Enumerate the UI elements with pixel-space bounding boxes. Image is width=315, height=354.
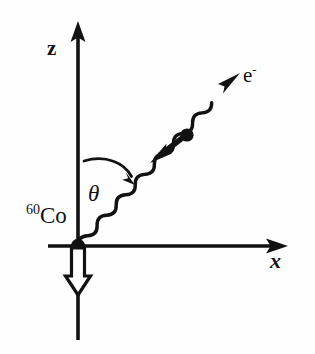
electron-spin-arrow-icon — [150, 128, 194, 163]
nucleus-element-symbol: Co — [40, 203, 67, 228]
beta-decay-figure: z x e- θ 60Co — [0, 0, 315, 354]
electron-track-wave — [75, 81, 232, 248]
electron-track-arrowhead-icon — [218, 73, 240, 94]
electron-symbol: e — [243, 63, 252, 87]
nuclear-spin-arrow-icon — [66, 248, 91, 295]
nucleus-mass-number: 60 — [26, 202, 40, 217]
electron-spin-dot-icon — [180, 128, 193, 141]
z-axis-label: z — [47, 38, 56, 59]
nucleus-label: 60Co — [26, 203, 67, 227]
electron-label: e- — [243, 63, 256, 86]
angle-label: θ — [88, 182, 99, 205]
electron-charge-superscript: - — [252, 62, 256, 77]
x-axis-label: x — [270, 250, 281, 272]
